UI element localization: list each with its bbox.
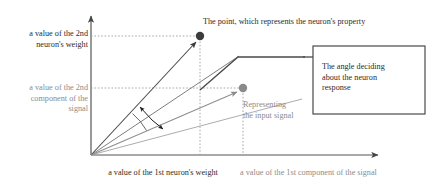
x-axis-signal-label: a value of the 1st component of the sign…: [240, 168, 436, 179]
neuron-response-curve: [200, 57, 305, 90]
angle-arc: [133, 114, 147, 131]
input-signal-vector: [91, 92, 237, 155]
y-axis-weight-label: a value of the 2nd neuron's weight: [4, 29, 88, 50]
weight-ray: [91, 56, 239, 155]
y-axis-signal-label: a value of the 2nd component of the sign…: [4, 83, 88, 115]
input-signal-point[interactable]: [239, 84, 247, 92]
weight-vector: [91, 42, 196, 155]
diagram-canvas: a value of the 2nd neuron's weight a val…: [0, 0, 437, 187]
neuron-weight-point[interactable]: [196, 32, 204, 40]
angle-box-label: The angle deciding about the neuron resp…: [322, 62, 420, 94]
neuron-point-callout-label: The point, which represents the neuron's…: [203, 17, 435, 28]
input-signal-callout-label: Representing the input signal: [243, 100, 323, 121]
x-axis-weight-label: a value of the 1st neuron's weight: [88, 168, 238, 179]
